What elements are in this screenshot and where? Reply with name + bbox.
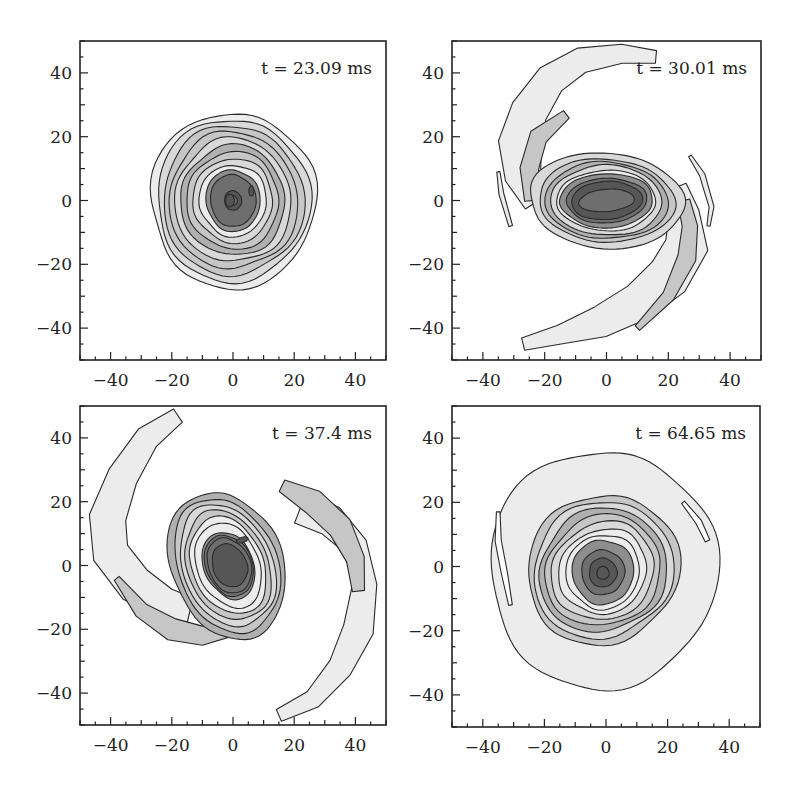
y-tick-label: 0 [433,191,444,211]
panel-time-label: t = 30.01 ms [636,58,747,78]
y-tick-label: 20 [422,492,444,512]
x-tick-label: 20 [283,370,305,390]
x-tick-label: 0 [601,370,612,390]
x-tick-label: 20 [283,735,305,755]
x-tick-label: 40 [345,370,367,390]
panel-bottom-right: −40−2002040−40−2002040t = 64.65 ms [408,406,760,757]
y-tick-label: 40 [50,428,72,448]
x-tick-label: 20 [657,370,679,390]
figure-canvas: −40−2002040−40−2002040t = 23.09 ms−40−20… [0,0,801,787]
x-tick-label: −40 [93,370,129,390]
panel-top-right: −40−2002040−40−2002040t = 30.01 ms [408,41,761,390]
contour-plot [491,453,720,691]
y-tick-label: 40 [422,428,444,448]
y-tick-label: −20 [36,254,72,274]
y-tick-label: 20 [50,127,72,147]
y-tick-label: −20 [36,619,72,639]
x-tick-label: −40 [93,735,129,755]
x-tick-label: −40 [465,370,501,390]
x-tick-label: −20 [527,370,563,390]
x-tick-label: −20 [154,370,190,390]
x-tick-label: −20 [526,737,562,757]
y-tick-label: −40 [36,318,72,338]
y-tick-label: 40 [422,63,444,83]
panel-time-label: t = 64.65 ms [635,423,746,443]
y-tick-label: −40 [36,683,72,703]
panel-time-label: t = 37.4 ms [272,423,372,443]
y-tick-label: 0 [61,191,72,211]
y-tick-label: −20 [408,254,444,274]
x-tick-label: 0 [228,735,239,755]
contour-plot [150,114,318,290]
x-tick-label: −40 [465,737,501,757]
x-tick-label: 40 [345,735,367,755]
y-tick-label: 40 [50,63,72,83]
x-tick-label: 40 [718,737,740,757]
contour-plot [89,409,376,721]
y-tick-label: −40 [408,685,444,705]
contour-plot [497,44,714,350]
y-tick-label: 20 [422,127,444,147]
y-tick-label: −20 [408,621,444,641]
y-tick-label: 0 [433,557,444,577]
y-tick-label: 20 [50,492,72,512]
x-tick-label: 20 [657,737,679,757]
x-tick-label: 40 [719,370,741,390]
panel-time-label: t = 23.09 ms [261,58,372,78]
panel-top-left: −40−2002040−40−2002040t = 23.09 ms [36,41,386,390]
y-tick-label: 0 [61,556,72,576]
x-tick-label: 0 [228,370,239,390]
panel-bottom-left: −40−2002040−40−2002040t = 37.4 ms [36,406,386,755]
x-tick-label: −20 [154,735,190,755]
y-tick-label: −40 [408,318,444,338]
x-tick-label: 0 [601,737,612,757]
